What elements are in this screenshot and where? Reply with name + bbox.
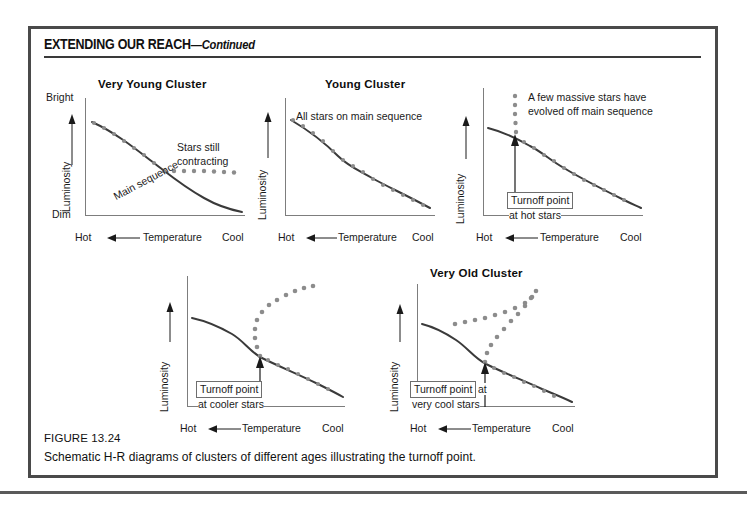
x-axis-left-label-4: Hot [180,422,196,434]
figure-caption: Schematic H-R diagrams of clusters of di… [44,450,476,464]
x-axis-left-label-2: Hot [278,231,294,243]
header-divider [44,56,701,58]
annotation-1-line2: contracting [177,155,228,169]
dots-evolved-giants-3 [513,94,518,134]
section-header-title: EXTENDING OUR REACH [44,36,191,52]
x-axis-arrow-2 [303,231,341,245]
turnoff-box-4: Turnoff point [196,381,262,398]
figure-number: FIGURE 13.24 [44,432,121,444]
x-axis-arrow-1 [104,231,144,245]
turnoff-sub-5: very cool stars [412,398,480,410]
y-axis-arrow-4 [158,290,182,390]
annotation-3-line1: A few massive stars have [528,91,646,105]
x-axis-title-3: Temperature [540,231,599,243]
x-axis-right-label-3: Cool [620,231,642,243]
x-axis-right-label-5: Cool [552,422,574,434]
x-axis-right-label-4: Cool [322,422,344,434]
dots-main-sequence-2 [291,118,425,207]
turnoff-sub-3: at hot stars [509,209,561,221]
x-axis-title-5: Temperature [472,422,531,434]
dots-red-giant-branch-5 [483,289,539,365]
annotation-3-line2: evolved off main sequence [528,105,653,119]
x-axis-right-label-1: Cool [222,231,244,243]
x-axis-arrow-5 [435,422,475,436]
x-axis-title-4: Temperature [242,422,301,434]
section-header: EXTENDING OUR REACH—Continued [44,36,255,52]
dots-red-giant-branch-4 [253,284,316,359]
annotation-1-line1: Stars still [177,141,220,155]
x-axis-arrow-3 [502,231,542,245]
x-axis-right-label-2: Cool [412,231,434,243]
x-axis-left-label-1: Hot [75,231,91,243]
x-axis-left-label-3: Hot [476,231,492,243]
x-axis-left-label-5: Hot [410,422,426,434]
panel-title-5: Very Old Cluster [430,267,523,279]
x-axis-title-1: Temperature [143,231,202,243]
x-axis-arrow-4 [205,422,245,436]
turnoff-sub-4: at cooler stars [198,398,264,410]
annotation-2-line1: All stars on main sequence [296,110,422,124]
x-axis-title-2: Temperature [338,231,397,243]
turnoff-box-5: Turnoff point [410,381,476,398]
turnoff-box-tail-5: at [478,383,487,395]
panel-title-2: Young Cluster [325,78,405,90]
y-axis-arrow-3 [454,104,478,204]
page-bottom-rule [0,491,747,494]
y-axis-arrow-2 [256,100,280,200]
y-axis-arrow-5 [388,292,412,392]
y-axis-arrow-1 [60,100,84,210]
dots-horizontal-branch-5 [453,295,535,327]
section-header-continued: —Continued [191,37,255,52]
turnoff-box-3: Turnoff point [507,192,573,209]
panel-title-1: Very Young Cluster [98,78,207,90]
